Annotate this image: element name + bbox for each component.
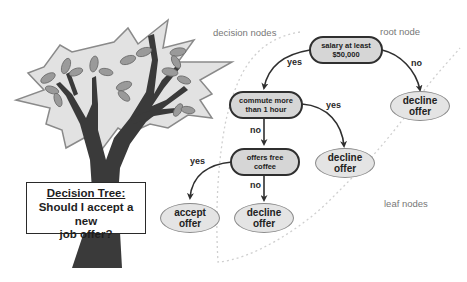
edge-commute-yes <box>302 104 344 146</box>
edge-coffee-yes <box>190 162 232 198</box>
leaf-node-accept: accept offer <box>160 203 220 233</box>
node-text: accept <box>174 207 206 219</box>
leaf-nodes-label: leaf nodes <box>384 199 428 209</box>
node-text: decline <box>247 207 281 219</box>
edge-label-coffee-no: no <box>250 181 261 190</box>
node-text: coffee <box>247 162 284 171</box>
leaf-node-decline-coffee: decline offer <box>234 203 294 233</box>
decision-node-coffee: offers free coffee <box>230 148 300 176</box>
edge-root-no <box>382 50 420 90</box>
tree-edges <box>190 50 420 200</box>
edge-label-coffee-yes: yes <box>190 157 205 166</box>
node-text: offer <box>174 218 206 230</box>
title-question-line1: Should I accept a new <box>27 201 145 229</box>
leaf-node-decline-salary: decline offer <box>390 91 450 121</box>
node-text: offer <box>247 218 281 230</box>
node-text: salary at least <box>321 41 371 50</box>
edge-label-commute-no: no <box>250 126 261 135</box>
node-text: decline <box>328 152 362 164</box>
root-node-salary: salary at least $50,000 <box>309 36 383 64</box>
edge-root-yes <box>264 50 310 88</box>
node-text: offers free <box>247 153 284 162</box>
edge-label-root-yes: yes <box>287 58 302 67</box>
edge-label-commute-yes: yes <box>326 101 341 110</box>
edge-label-root-no: no <box>411 59 422 68</box>
decision-nodes-label: decision nodes <box>213 28 276 38</box>
node-text: $50,000 <box>321 50 371 59</box>
node-text: offer <box>328 163 362 175</box>
diagram-title-box: Decision Tree: Should I accept a new job… <box>26 182 146 234</box>
node-text: than 1 hour <box>239 105 293 114</box>
leaf-node-decline-commute: decline offer <box>315 148 375 178</box>
node-text: offer <box>403 106 437 118</box>
title-heading: Decision Tree: <box>27 187 145 201</box>
root-node-label: root node <box>380 27 420 37</box>
node-text: commute more <box>239 96 293 105</box>
title-question-line2: job offer? <box>27 228 145 242</box>
node-text: decline <box>403 95 437 107</box>
decision-node-commute: commute more than 1 hour <box>229 91 303 119</box>
